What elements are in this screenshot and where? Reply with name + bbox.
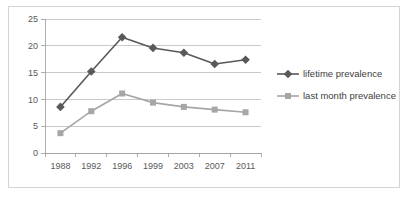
data-point-marker (88, 108, 94, 114)
data-point-marker (57, 130, 63, 136)
y-axis-tick-label: 25 (28, 14, 38, 24)
line-chart: 05101520251988199219961999200320072011li… (9, 7, 399, 187)
y-axis-tick-label: 5 (33, 121, 38, 131)
data-point-marker (119, 91, 125, 97)
data-point-marker (149, 44, 158, 53)
x-axis-tick-label: 2011 (236, 161, 255, 171)
legend-marker (284, 70, 293, 79)
y-axis-tick-label: 10 (28, 95, 38, 105)
series-2 (57, 91, 248, 137)
legend-marker (285, 93, 291, 99)
legend-entry[interactable]: last month prevalence (277, 90, 396, 101)
x-axis-tick-label: 1988 (50, 161, 70, 171)
data-point-marker (212, 107, 218, 113)
x-axis-tick-label: 1996 (112, 161, 132, 171)
data-point-marker (181, 104, 187, 110)
plot-area: 05101520251988199219961999200320072011li… (9, 7, 399, 187)
y-axis-tick-label: 15 (28, 68, 38, 78)
legend-entry[interactable]: lifetime prevalence (277, 68, 382, 79)
data-point-marker (150, 100, 156, 106)
legend-label: last month prevalence (303, 90, 396, 101)
chart-container: 05101520251988199219961999200320072011li… (8, 6, 400, 188)
data-point-marker (243, 109, 249, 115)
x-axis-tick-label: 2003 (174, 161, 194, 171)
x-axis-tick-label: 1992 (81, 161, 101, 171)
legend-label: lifetime prevalence (303, 68, 382, 79)
data-point-marker (180, 48, 189, 57)
data-point-marker (241, 55, 250, 64)
x-axis-tick-label: 2007 (205, 161, 225, 171)
y-axis-tick-label: 20 (28, 41, 38, 51)
y-axis-tick-label: 0 (33, 148, 38, 158)
x-axis-tick-label: 1999 (143, 161, 163, 171)
data-point-marker (210, 60, 219, 69)
